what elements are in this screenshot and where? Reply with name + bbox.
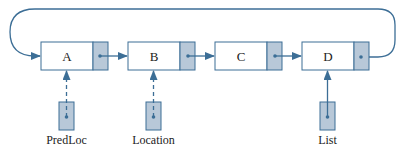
pointer-predloc: PredLoc	[46, 71, 87, 147]
pointer-location: Location	[132, 71, 175, 147]
pointer-label: Location	[132, 133, 175, 147]
node-label: A	[62, 49, 72, 64]
node-a: A	[41, 42, 108, 70]
node-c: C	[215, 42, 282, 70]
pointer-label: List	[318, 133, 337, 147]
linked-list-diagram: A B C D PredLoc Location	[0, 0, 411, 151]
node-b: B	[128, 42, 195, 70]
pointer-list: List	[318, 71, 337, 147]
node-label: B	[150, 49, 159, 64]
node-d: D	[302, 42, 369, 70]
pointer-label: PredLoc	[46, 133, 87, 147]
node-label: C	[237, 49, 246, 64]
node-label: D	[323, 49, 332, 64]
